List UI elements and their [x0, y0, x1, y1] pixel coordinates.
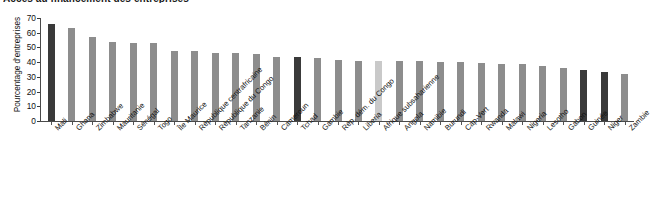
x-tick-mark	[318, 122, 319, 125]
bar	[273, 57, 280, 121]
x-tick-mark	[584, 122, 585, 125]
x-tick-mark	[256, 122, 257, 125]
y-tick-mark	[37, 92, 40, 93]
x-tick-mark	[51, 122, 52, 125]
x-tick-mark	[174, 122, 175, 125]
bar	[314, 58, 321, 121]
x-tick-mark	[399, 122, 400, 125]
x-tick-mark	[195, 122, 196, 125]
x-tick-mark	[461, 122, 462, 125]
x-tick-mark	[236, 122, 237, 125]
y-tick-mark	[37, 33, 40, 34]
x-tick-mark	[604, 122, 605, 125]
x-tick-mark	[625, 122, 626, 125]
x-tick-mark	[420, 122, 421, 125]
x-tick-mark	[154, 122, 155, 125]
x-tick-mark	[215, 122, 216, 125]
y-axis-ticks: 010203040506070	[14, 0, 36, 140]
y-tick-label: 30	[27, 73, 36, 81]
y-tick-mark	[37, 106, 40, 107]
bar	[621, 74, 628, 121]
y-tick-label: 0	[31, 117, 36, 125]
y-tick-mark	[37, 62, 40, 63]
y-tick-label: 70	[27, 14, 36, 22]
y-tick-label: 20	[27, 88, 36, 96]
y-tick-label: 60	[27, 29, 36, 37]
x-tick-mark	[502, 122, 503, 125]
x-tick-mark	[481, 122, 482, 125]
x-tick-mark	[72, 122, 73, 125]
x-tick-mark	[543, 122, 544, 125]
x-tick-mark	[338, 122, 339, 125]
x-tick-mark	[297, 122, 298, 125]
x-tick-mark	[133, 122, 134, 125]
bar	[48, 24, 55, 121]
x-tick-mark	[440, 122, 441, 125]
x-tick-mark	[522, 122, 523, 125]
x-tick-mark	[277, 122, 278, 125]
bar	[171, 51, 178, 121]
y-tick-mark	[37, 47, 40, 48]
y-tick-label: 50	[27, 43, 36, 51]
plot-area	[41, 14, 635, 121]
bar	[68, 28, 75, 121]
x-tick-mark	[113, 122, 114, 125]
y-tick-label: 40	[27, 58, 36, 66]
y-tick-mark	[37, 18, 40, 19]
x-tick-mark	[563, 122, 564, 125]
x-tick-mark	[92, 122, 93, 125]
x-tick-mark	[379, 122, 380, 125]
y-tick-label: 10	[27, 102, 36, 110]
y-tick-mark	[37, 121, 40, 122]
x-tick-mark	[358, 122, 359, 125]
y-tick-mark	[37, 77, 40, 78]
